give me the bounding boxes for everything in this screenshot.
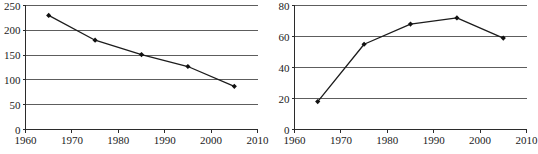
y-tick-label-80: 80 xyxy=(279,0,291,12)
series-line xyxy=(318,18,504,102)
data-point-marker xyxy=(185,64,190,69)
x-tick-label-1980: 1980 xyxy=(376,134,399,146)
x-tick-label-1990: 1990 xyxy=(423,134,446,146)
x-tick-label-2000: 2000 xyxy=(469,134,492,146)
data-point-marker xyxy=(454,15,459,20)
series-line xyxy=(49,15,235,86)
y-tick-label-60: 60 xyxy=(279,31,291,43)
x-tick-label-2000: 2000 xyxy=(200,134,223,146)
data-point-marker xyxy=(232,84,237,89)
line-chart-left: 050100150200250196019701980199020002010 xyxy=(0,0,269,154)
line-chart-right: 020406080196019701980199020002010 xyxy=(269,0,538,154)
x-tick-label-1990: 1990 xyxy=(154,134,177,146)
y-tick-label-50: 50 xyxy=(10,99,22,111)
data-point-marker xyxy=(46,13,51,18)
x-tick-label-2010: 2010 xyxy=(516,134,538,146)
data-point-marker xyxy=(139,52,144,57)
x-tick-label-1980: 1980 xyxy=(107,134,130,146)
x-tick-label-2010: 2010 xyxy=(247,134,270,146)
x-tick-label-1970: 1970 xyxy=(61,134,84,146)
y-tick-label-200: 200 xyxy=(4,24,21,36)
x-tick-label-1960: 1960 xyxy=(284,134,307,146)
figure-pair: 050100150200250196019701980199020002010 … xyxy=(0,0,538,154)
data-point-marker xyxy=(93,38,98,43)
y-tick-label-40: 40 xyxy=(279,62,291,74)
y-tick-label-100: 100 xyxy=(4,74,21,86)
chart-right-canvas: 020406080196019701980199020002010 xyxy=(269,0,538,154)
x-tick-label-1960: 1960 xyxy=(15,134,38,146)
chart-left-canvas: 050100150200250196019701980199020002010 xyxy=(0,0,269,154)
y-tick-label-250: 250 xyxy=(4,0,21,12)
data-point-marker xyxy=(408,22,413,27)
y-tick-label-20: 20 xyxy=(279,93,291,105)
y-tick-label-150: 150 xyxy=(4,49,21,61)
x-tick-label-1970: 1970 xyxy=(330,134,353,146)
